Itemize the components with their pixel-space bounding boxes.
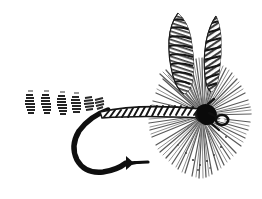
fly-illustration: Black and white illustration of a dry fl…: [0, 0, 262, 199]
fly-illustration-svg: [0, 0, 262, 199]
